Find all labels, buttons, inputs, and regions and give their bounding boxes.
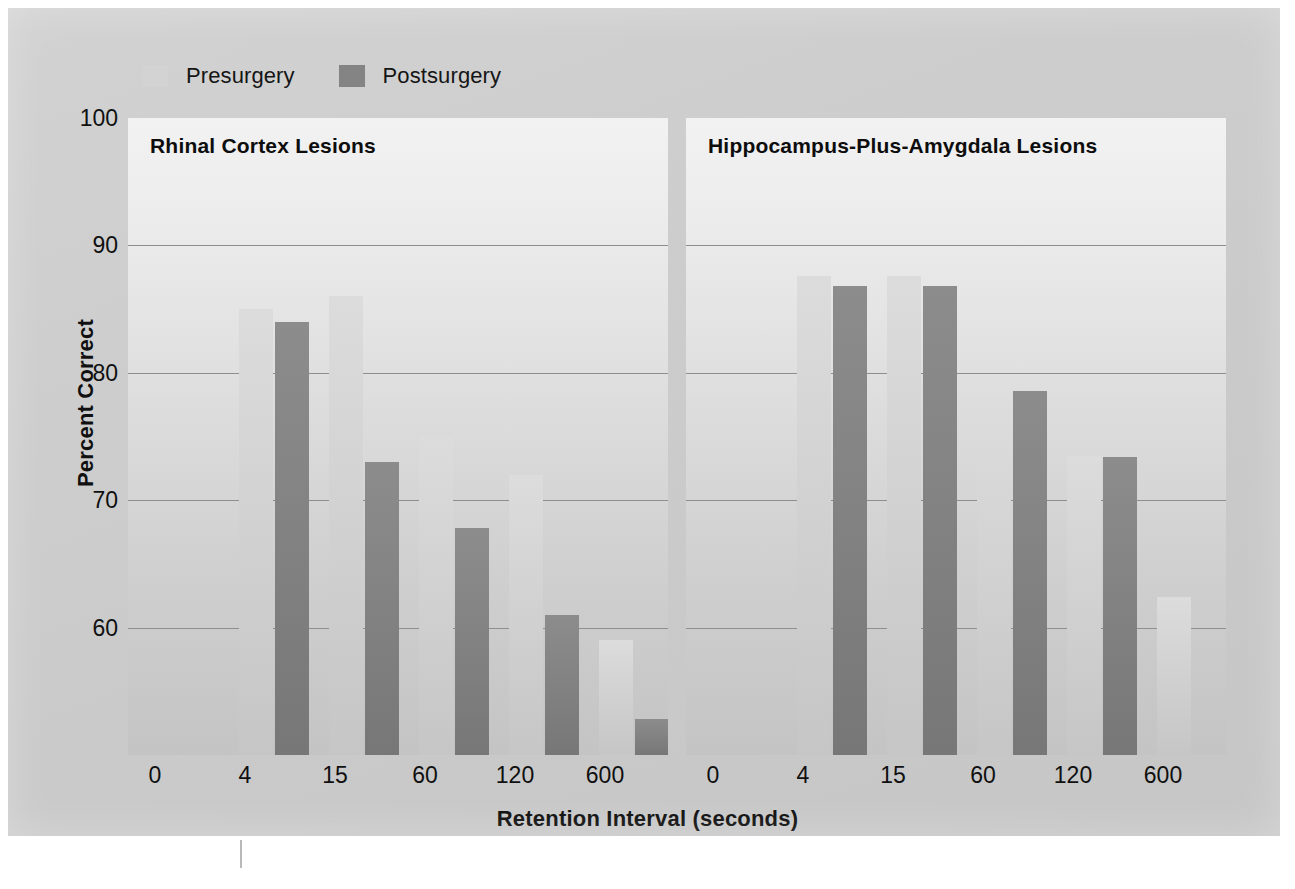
x-axis-tick-60: 60 (948, 762, 1018, 789)
y-axis-tick-80: 80 (48, 359, 118, 386)
x-axis-tick-15: 15 (300, 762, 370, 789)
bar-presurgery-60 (977, 414, 1011, 755)
page-bottom-margin (0, 836, 1295, 889)
bar-presurgery-4 (797, 276, 831, 755)
bar-presurgery-15 (887, 276, 921, 755)
panel-title-right: Hippocampus-Plus-Amygdala Lesions (708, 134, 1097, 158)
figure-root: Presurgery Postsurgery Percent Correct 1… (0, 0, 1295, 889)
bar-presurgery-120 (1067, 456, 1101, 755)
bar-postsurgery-600 (635, 719, 668, 755)
panel-title-left: Rhinal Cortex Lesions (150, 134, 376, 158)
bars-right (686, 118, 1226, 755)
x-axis-tick-0: 0 (120, 762, 190, 789)
legend-swatch-presurgery (142, 65, 168, 87)
bar-presurgery-600 (599, 640, 633, 755)
bar-postsurgery-15 (365, 462, 399, 755)
bar-postsurgery-60 (1013, 391, 1047, 755)
x-axis-tick-600: 600 (570, 762, 640, 789)
legend-label-postsurgery: Postsurgery (383, 63, 501, 89)
page-margin-tick (240, 840, 242, 868)
x-axis-tick-0: 0 (678, 762, 748, 789)
bar-presurgery-600 (1157, 597, 1191, 755)
y-axis-tick-70: 70 (48, 487, 118, 514)
bar-postsurgery-4 (833, 286, 867, 755)
legend-item-postsurgery: Postsurgery (339, 63, 501, 89)
bar-postsurgery-60 (455, 528, 489, 755)
bar-presurgery-15 (329, 296, 363, 755)
y-axis-tick-60: 60 (48, 614, 118, 641)
legend-swatch-postsurgery (339, 65, 365, 87)
x-axis-title: Retention Interval (seconds) (0, 806, 1295, 832)
x-axis-tick-4: 4 (210, 762, 280, 789)
bars-left (128, 118, 668, 755)
y-axis-tick-100: 100 (48, 105, 118, 132)
y-axis-tick-90: 90 (48, 232, 118, 259)
y-axis-ticks: 10090807060 (40, 0, 118, 828)
bar-postsurgery-15 (923, 286, 957, 755)
x-axis-tick-60: 60 (390, 762, 460, 789)
bar-postsurgery-120 (1103, 457, 1137, 755)
x-axis-tick-120: 120 (480, 762, 550, 789)
x-axis-tick-4: 4 (768, 762, 838, 789)
x-axis-tick-120: 120 (1038, 762, 1108, 789)
legend: Presurgery Postsurgery (142, 62, 501, 90)
bar-presurgery-120 (509, 475, 543, 755)
legend-label-presurgery: Presurgery (186, 63, 295, 89)
panel-hippocampus-plus-amygdala-lesions: Hippocampus-Plus-Amygdala Lesions (686, 118, 1226, 755)
bar-presurgery-60 (419, 437, 453, 756)
x-axis-tick-15: 15 (858, 762, 928, 789)
x-axis-tick-600: 600 (1128, 762, 1198, 789)
bar-postsurgery-120 (545, 615, 579, 755)
bar-presurgery-4 (239, 309, 273, 755)
panel-rhinal-cortex-lesions: Rhinal Cortex Lesions (128, 118, 668, 755)
bar-postsurgery-4 (275, 322, 309, 755)
legend-item-presurgery: Presurgery (142, 63, 295, 89)
